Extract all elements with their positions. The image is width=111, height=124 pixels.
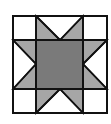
quilt-block-diagram	[0, 0, 111, 124]
center-square	[36, 40, 83, 89]
